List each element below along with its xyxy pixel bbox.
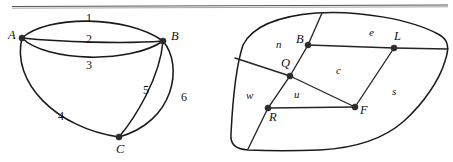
right-outer-boundary (231, 12, 448, 150)
right-vertex-B[interactable] (305, 42, 311, 48)
right-vertex-label-L: L (394, 30, 401, 43)
horizontal-rule (12, 5, 448, 8)
left-vertex-label-C: C (116, 143, 124, 156)
right-edge-F-L (355, 48, 394, 107)
left-edge-2 (22, 38, 163, 42)
right-vertex-label-Q: Q (281, 57, 290, 70)
left-vertex-label-B: B (171, 30, 179, 43)
left-vertex-A[interactable] (19, 35, 25, 41)
left-vertex-C[interactable] (116, 134, 122, 140)
left-vertex-B[interactable] (160, 38, 166, 44)
left-edge-5 (119, 41, 163, 137)
right-figure-group (231, 12, 448, 150)
left-edge-4 (20, 38, 119, 137)
right-vertex-Q[interactable] (287, 73, 293, 79)
right-region-label-n: n (276, 39, 282, 50)
right-region-label-s: s (392, 86, 396, 97)
right-vertex-label-F: F (360, 104, 368, 117)
left-edge-3 (22, 38, 163, 57)
left-figure-group (19, 21, 173, 140)
left-edge-label-3: 3 (86, 59, 92, 71)
right-region-label-w: w (246, 90, 253, 101)
right-region-label-e: e (369, 27, 374, 38)
right-vertex-label-B: B (296, 33, 304, 46)
right-vertex-L[interactable] (391, 45, 397, 51)
right-region-label-u: u (294, 89, 300, 100)
right-vertex-label-R: R (269, 111, 277, 124)
right-region-label-c: c (336, 65, 341, 76)
right-edge-R-F (268, 107, 355, 108)
right-edge-top-B-Q-bottom (248, 13, 322, 149)
left-edge-label-1: 1 (86, 12, 92, 24)
left-edge-label-5: 5 (143, 84, 149, 96)
left-edge-label-4: 4 (58, 110, 64, 122)
figure-root: A B C 1 2 3 4 5 6 B L Q R F n e c s w u (0, 0, 453, 162)
left-edge-label-6: 6 (181, 91, 187, 103)
left-edge-1 (22, 21, 163, 41)
left-edge-label-2: 2 (86, 33, 92, 45)
left-vertex-label-A: A (8, 29, 16, 42)
right-edge-B-L-boundary (308, 45, 448, 49)
figures-canvas (0, 0, 453, 162)
right-vertex-F[interactable] (352, 104, 358, 110)
